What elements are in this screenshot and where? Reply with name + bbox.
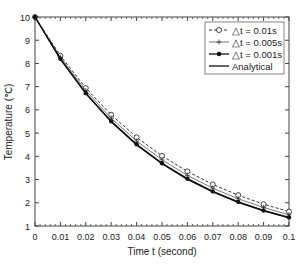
legend-label: △t = 0.001s bbox=[232, 49, 282, 60]
x-tick-label: 0.03 bbox=[102, 232, 120, 242]
x-tick-label: 0.09 bbox=[255, 232, 273, 242]
legend-label: Analytical bbox=[232, 61, 273, 72]
y-tick-label: 10 bbox=[20, 13, 30, 23]
x-tick-label: 0.04 bbox=[128, 232, 146, 242]
y-tick-label: 8 bbox=[25, 59, 30, 69]
legend-marker-filled-circle bbox=[217, 52, 221, 56]
x-tick-label: 0.1 bbox=[283, 232, 296, 242]
legend-label: △t = 0.005s bbox=[232, 37, 282, 48]
y-tick-label: 7 bbox=[25, 82, 30, 92]
y-tick-label: 2 bbox=[25, 198, 30, 208]
y-tick-label: 1 bbox=[25, 222, 30, 232]
y-tick-label: 3 bbox=[25, 175, 30, 185]
y-tick-label: 9 bbox=[25, 36, 30, 46]
legend-marker-open-circle bbox=[217, 28, 222, 33]
chart-canvas: 00.010.020.030.040.050.060.070.080.090.1… bbox=[0, 0, 302, 265]
x-tick-label: 0.01 bbox=[52, 232, 70, 242]
legend: △t = 0.01s△t = 0.005s△t = 0.001sAnalytic… bbox=[205, 22, 284, 74]
x-tick-label: 0.02 bbox=[77, 232, 95, 242]
x-axis-label: Time t (second) bbox=[127, 246, 196, 257]
y-tick-label: 6 bbox=[25, 105, 30, 115]
y-tick-label: 5 bbox=[25, 129, 30, 139]
temperature-chart: 00.010.020.030.040.050.060.070.080.090.1… bbox=[0, 0, 302, 265]
legend-label: △t = 0.01s bbox=[232, 25, 277, 36]
x-tick-label: 0.06 bbox=[179, 232, 197, 242]
y-tick-label: 4 bbox=[25, 152, 30, 162]
x-tick-label: 0.05 bbox=[153, 232, 171, 242]
x-tick-label: 0.07 bbox=[204, 232, 222, 242]
y-axis-label: Temperature (℃) bbox=[3, 84, 14, 161]
x-tick-label: 0 bbox=[32, 232, 37, 242]
x-tick-label: 0.08 bbox=[229, 232, 247, 242]
